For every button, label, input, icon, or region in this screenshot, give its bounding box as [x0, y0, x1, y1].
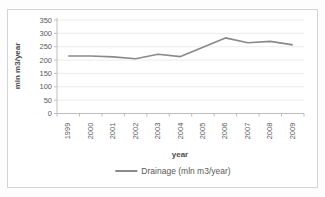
page: { "chart_data": { "type": "line", "title…	[0, 0, 325, 197]
x-tick-label: 2007	[244, 123, 252, 140]
y-tick-label: 0	[8, 110, 52, 118]
y-tick-label: 300	[8, 30, 52, 38]
x-tick-label: 2004	[177, 123, 185, 140]
x-tick-label: 2002	[132, 123, 140, 140]
y-tick-label: 100	[8, 83, 52, 91]
x-tick-label: 2003	[154, 123, 162, 140]
x-tick-label: 2000	[87, 123, 95, 140]
x-tick-label: 2009	[289, 123, 297, 140]
chart-area: mln m3/year year Drainage (mln m3/year) …	[7, 9, 318, 188]
y-tick-label: 200	[8, 57, 52, 65]
x-tick-label: 1999	[64, 123, 72, 140]
legend-label: Drainage (mln m3/year)	[141, 167, 230, 176]
x-tick-label: 2008	[267, 123, 275, 140]
y-tick-label: 250	[8, 43, 52, 51]
x-tick-label: 2005	[199, 123, 207, 140]
x-axis-title: year	[172, 151, 188, 159]
y-tick-label: 350	[8, 17, 52, 25]
y-tick-label: 50	[8, 97, 52, 105]
legend-line-marker	[115, 170, 137, 172]
x-tick-label: 2006	[222, 123, 230, 140]
chart-legend: Drainage (mln m3/year)	[115, 167, 230, 176]
line-chart-plot	[8, 10, 317, 187]
x-tick-label: 2001	[109, 123, 117, 140]
y-tick-label: 150	[8, 70, 52, 78]
